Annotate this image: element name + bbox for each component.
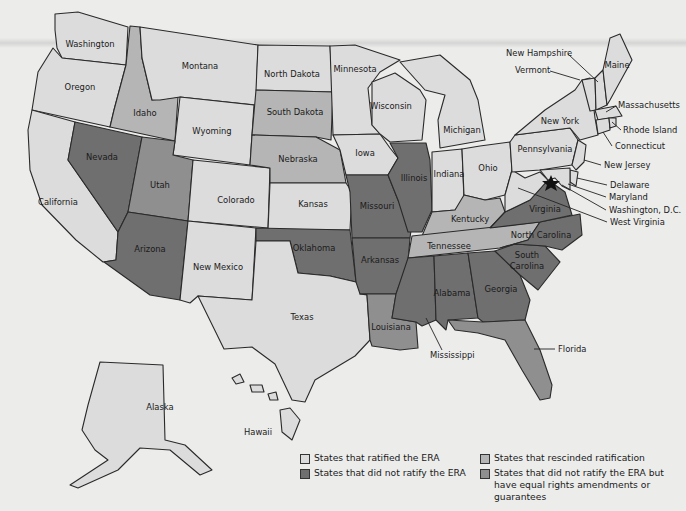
legend-label-equal-rights: States that did not ratify the ERA but h… [494, 467, 686, 503]
label-south-carolina-1: South [515, 250, 539, 260]
label-rhode-island: Rhode Island [623, 125, 677, 135]
label-new-hampshire: New Hampshire [506, 48, 572, 58]
label-maryland: Maryland [609, 192, 648, 202]
label-colorado: Colorado [217, 195, 254, 205]
legend-swatch-ratified [300, 454, 310, 464]
legend-swatch-rescinded [480, 454, 490, 464]
label-south-dakota: South Dakota [267, 107, 324, 117]
legend-swatch-equal-rights [480, 469, 490, 479]
legend-label-equal-rights-line1: States that did not ratify the ERA but [494, 467, 664, 478]
label-kentucky: Kentucky [451, 214, 489, 224]
leader-vermont [550, 71, 580, 80]
label-delaware: Delaware [610, 180, 649, 190]
state-hawaii[interactable] [280, 408, 300, 440]
label-connecticut: Connecticut [615, 141, 666, 151]
label-utah: Utah [150, 180, 170, 190]
legend-item-equal-rights: States that did not ratify the ERA but h… [480, 467, 686, 503]
label-minnesota: Minnesota [333, 64, 376, 74]
label-oregon: Oregon [65, 82, 96, 92]
label-vermont: Vermont [515, 65, 551, 75]
label-nevada: Nevada [86, 152, 118, 162]
legend-label-ratified: States that ratified the ERA [314, 452, 439, 464]
state-delaware[interactable] [570, 170, 578, 186]
label-indiana: Indiana [434, 169, 465, 179]
legend-item-ratified: States that ratified the ERA [300, 452, 439, 464]
label-wisconsin: Wisconsin [370, 101, 412, 111]
label-massachusetts: Massachusetts [618, 100, 680, 110]
label-tennessee: Tennessee [426, 241, 471, 251]
label-kansas: Kansas [298, 199, 328, 209]
label-west-virginia: West Virginia [610, 217, 665, 227]
label-arkansas: Arkansas [361, 255, 399, 265]
leader-maryland [568, 184, 606, 197]
leader-delaware [577, 178, 607, 185]
label-north-dakota: North Dakota [264, 69, 320, 79]
legend-label-not-ratified: States that did not ratify the ERA [314, 467, 466, 479]
label-iowa: Iowa [355, 148, 375, 158]
label-washington-dc: Washington, D.C. [609, 205, 681, 215]
label-new-york: New York [541, 116, 579, 126]
label-north-carolina: North Carolina [511, 230, 572, 240]
label-california: California [38, 197, 78, 207]
label-ohio: Ohio [478, 163, 497, 173]
label-georgia: Georgia [485, 284, 518, 294]
label-maine: Maine [604, 60, 629, 70]
label-florida: Florida [558, 344, 587, 354]
label-wyoming: Wyoming [192, 126, 231, 136]
label-idaho: Idaho [133, 108, 156, 118]
leader-connecticut [603, 132, 612, 146]
label-alaska: Alaska [146, 402, 173, 412]
label-nebraska: Nebraska [278, 154, 318, 164]
label-mississippi: Mississippi [430, 350, 475, 360]
state-connecticut[interactable] [596, 118, 610, 134]
label-new-jersey: New Jersey [604, 160, 651, 170]
label-michigan: Michigan [443, 125, 481, 135]
leader-new-jersey [584, 160, 601, 165]
legend-label-equal-rights-line2: have equal rights amendments or guarante… [494, 479, 650, 502]
label-alabama: Alabama [434, 288, 471, 298]
hawaii-islands [232, 374, 278, 400]
label-new-mexico: New Mexico [193, 262, 243, 272]
label-texas: Texas [289, 312, 313, 322]
label-arizona: Arizona [134, 244, 165, 254]
label-oklahoma: Oklahoma [293, 243, 336, 253]
state-colorado[interactable] [188, 160, 270, 228]
label-virginia: Virginia [529, 204, 561, 214]
label-pennsylvania: Pennsylvania [517, 144, 572, 154]
legend-item-not-ratified: States that did not ratify the ERA [300, 467, 466, 479]
label-missouri: Missouri [360, 201, 394, 211]
state-florida[interactable] [448, 320, 552, 400]
label-south-carolina-2: Carolina [510, 261, 544, 271]
legend-item-rescinded: States that rescinded ratification [480, 452, 645, 464]
label-hawaii: Hawaii [244, 427, 272, 437]
label-washington: Washington [65, 39, 114, 49]
label-montana: Montana [182, 61, 219, 71]
us-map: Washington Oregon California Idaho Nevad… [0, 0, 686, 511]
state-alaska[interactable] [70, 362, 212, 488]
legend-label-rescinded: States that rescinded ratification [494, 452, 645, 464]
label-louisiana: Louisiana [371, 322, 411, 332]
legend-swatch-not-ratified [300, 469, 310, 479]
label-illinois: Illinois [401, 173, 428, 183]
